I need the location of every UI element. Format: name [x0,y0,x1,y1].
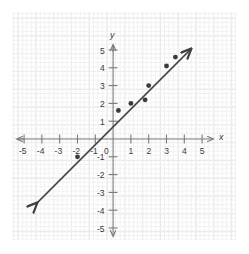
x-tick-label-neg4: -4 [37,147,45,156]
graph-plot-svg [0,0,249,254]
y-axis-label: y [110,31,115,40]
y-tick-label-3: 3 [100,82,105,91]
data-point [143,97,148,102]
x-tick-label-neg5: -5 [19,147,27,156]
y-tick-label-neg1: -1 [97,153,105,162]
y-tick-label-2: 2 [100,100,105,109]
y-tick-label-1: 1 [100,118,105,127]
y-tick-label-4: 4 [100,64,105,73]
y-tick-label-neg4: -4 [97,207,105,216]
x-tick-label-neg3: -3 [55,147,63,156]
y-tick-label-neg5: -5 [97,225,105,234]
y-axis-group [109,45,118,236]
x-tick-label-2: 2 [146,147,151,156]
y-tick-label-5: 5 [100,47,105,56]
scatter-points-group [75,55,178,160]
x-axis-label: x [219,133,224,142]
x-tick-label-3: 3 [164,147,169,156]
x-tick-label-neg2: -2 [72,147,80,156]
x-tick-label-1: 1 [129,147,134,156]
data-point [116,108,121,113]
y-tick-label-neg2: -2 [97,171,105,180]
y-tick-label-neg3: -3 [97,189,105,198]
data-point [129,101,134,106]
data-point [146,83,151,88]
x-axis-group [17,135,213,144]
x-tick-label-5: 5 [200,147,205,156]
x-tick-label-4: 4 [182,147,187,156]
coordinate-plane-figure: -5 -4 -3 -2 -1 1 2 3 4 5 0 5 4 3 2 1 -1 … [0,0,249,254]
data-point [173,55,178,60]
data-point [164,64,169,69]
